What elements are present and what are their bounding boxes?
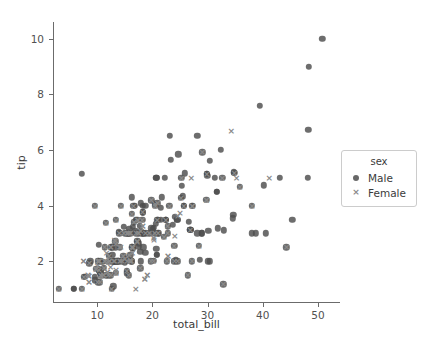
x-tick-mark (318, 303, 319, 307)
scatter-point (205, 228, 211, 234)
scatter-point (167, 133, 173, 139)
scatter-point (92, 265, 100, 273)
scatter-point (265, 174, 273, 182)
scatter-point (180, 202, 188, 210)
scatter-point (154, 229, 162, 237)
scatter-point (256, 103, 262, 109)
scatter-point (220, 227, 226, 233)
scatter-plot-figure: tip total_bill 1020304050 246810 sex Mal… (0, 0, 424, 355)
scatter-point (170, 242, 178, 250)
scatter-point (248, 202, 256, 210)
scatter-point (263, 230, 269, 236)
scatter-point (79, 257, 87, 265)
scatter-point (207, 158, 213, 164)
scatter-point (198, 148, 206, 156)
scatter-point (194, 133, 200, 139)
scatter-point (117, 202, 125, 210)
legend-item-label: Male (368, 172, 393, 184)
x-tick-mark (263, 303, 264, 307)
scatter-point (111, 236, 119, 244)
scatter-point (188, 257, 196, 265)
scatter-point (129, 194, 135, 200)
scatter-point (175, 151, 181, 157)
scatter-point (165, 202, 173, 210)
x-tick-label: 30 (201, 310, 214, 321)
legend-item-label: Female (368, 187, 406, 199)
scatter-point (214, 189, 220, 195)
scatter-point (211, 175, 217, 181)
scatter-point (178, 183, 184, 189)
scatter-point (203, 170, 211, 178)
scatter-point (305, 175, 311, 181)
scatter-point (168, 157, 174, 163)
scatter-point (153, 216, 161, 224)
scatter-point (260, 182, 266, 188)
scatter-point (164, 222, 172, 230)
scatter-point (196, 257, 202, 263)
scatter-point (129, 202, 137, 210)
x-tick-mark (208, 303, 209, 307)
scatter-point (133, 216, 141, 224)
x-tick-label: 40 (256, 310, 269, 321)
scatter-point (91, 202, 99, 210)
y-axis-label: tip (14, 22, 28, 303)
scatter-point (101, 243, 109, 251)
scatter-point (79, 170, 85, 176)
scatter-points-layer (53, 22, 340, 303)
scatter-point (282, 243, 290, 251)
scatter-point (84, 271, 92, 279)
scatter-point (106, 257, 114, 265)
scatter-point (277, 175, 283, 181)
scatter-point (306, 63, 312, 69)
scatter-point (187, 174, 195, 182)
scatter-point (218, 147, 224, 153)
cross-marker-icon: × (348, 186, 364, 200)
scatter-point (116, 257, 124, 265)
scatter-point (108, 285, 116, 293)
scatter-point (227, 127, 235, 135)
x-tick-mark (152, 303, 153, 307)
scatter-point (305, 126, 311, 132)
legend: sex Male × Female (341, 150, 417, 207)
scatter-point (107, 271, 115, 279)
scatter-point (123, 229, 131, 237)
scatter-point (319, 35, 325, 41)
scatter-point (219, 280, 227, 288)
scatter-point (195, 242, 203, 250)
scatter-point (132, 285, 140, 293)
plot-area: 1020304050 246810 (53, 22, 340, 303)
scatter-point (102, 219, 110, 227)
scatter-point (55, 285, 63, 293)
scatter-point (78, 285, 86, 293)
legend-item-female[interactable]: × Female (348, 185, 410, 200)
scatter-point (153, 175, 159, 181)
scatter-point (199, 230, 205, 236)
y-axis-label-text: tip (15, 155, 28, 169)
legend-item-male[interactable]: Male (348, 170, 410, 185)
scatter-point (125, 271, 133, 279)
scatter-point (189, 202, 197, 210)
scatter-point (70, 286, 76, 292)
scatter-point (218, 174, 226, 182)
legend-title: sex (348, 156, 410, 167)
scatter-point (142, 249, 148, 255)
y-tick-label: 10 (31, 33, 44, 44)
y-tick-label: 8 (37, 89, 44, 100)
scatter-point (164, 252, 172, 260)
x-tick-label: 10 (90, 310, 103, 321)
scatter-point (289, 216, 295, 222)
y-tick-label: 4 (37, 200, 44, 211)
scatter-point (177, 174, 185, 182)
scatter-point (202, 196, 210, 204)
scatter-point (147, 196, 155, 204)
scatter-point (141, 275, 149, 283)
scatter-point (112, 216, 120, 224)
scatter-point (129, 249, 137, 257)
scatter-point (186, 226, 194, 234)
y-tick-label: 6 (37, 145, 44, 156)
x-tick-mark (97, 303, 98, 307)
x-tick-label: 20 (146, 310, 159, 321)
scatter-point (230, 169, 238, 177)
scatter-point (236, 183, 244, 191)
scatter-point (171, 232, 179, 240)
